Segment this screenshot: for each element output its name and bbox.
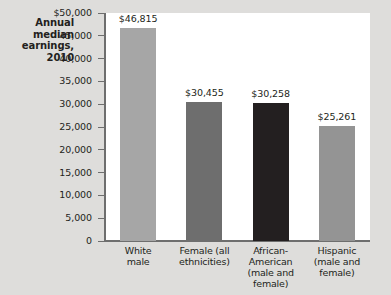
y-axis-tick-label: 30,000 (30, 99, 92, 109)
y-axis-tick (98, 127, 105, 128)
y-axis-tick (98, 81, 105, 82)
category-label-line: African- (238, 245, 304, 256)
category-label-line: Female (all (171, 245, 237, 256)
x-axis-category-label: Female (allethnicities) (171, 245, 237, 267)
category-label-line: ethnicities) (171, 256, 237, 267)
bar-value-label: $25,261 (318, 112, 357, 122)
category-label-line: American (238, 256, 304, 267)
y-axis-tick-label: 10,000 (30, 190, 92, 200)
x-axis-category-label: Hispanic(male andfemale) (304, 245, 370, 278)
category-label-line: (male and (304, 256, 370, 267)
bar-group: $46,815 (120, 13, 156, 241)
y-axis-tick-label: 35,000 (30, 76, 92, 86)
category-label-line: (male and (238, 267, 304, 278)
bar (120, 28, 156, 241)
bar-value-label: $46,815 (119, 14, 158, 24)
bar-group: $30,455 (186, 13, 222, 241)
y-axis-tick (98, 104, 105, 105)
x-axis-category-label: African-American(male andfemale) (238, 245, 304, 289)
bar-value-label: $30,455 (185, 88, 224, 98)
bar (186, 102, 222, 241)
y-axis-tick-label: 15,000 (30, 168, 92, 178)
bar-chart-figure: Annualmedianearnings,2010 05,00010,00015… (0, 0, 391, 295)
category-label-line: White (105, 245, 171, 256)
y-axis-tick (98, 35, 105, 36)
y-axis-tick (98, 13, 105, 14)
y-axis-tick (98, 218, 105, 219)
x-axis-category-label: Whitemale (105, 245, 171, 267)
bar-value-label: $30,258 (251, 89, 290, 99)
y-axis-tick-label: $50,000 (30, 8, 92, 18)
y-axis-tick-label: 0 (30, 236, 92, 246)
bar-group: $25,261 (319, 13, 355, 241)
category-label-line: male (105, 256, 171, 267)
y-axis-tick (98, 149, 105, 150)
bar (253, 103, 289, 241)
y-axis-tick-label: 40,000 (30, 54, 92, 64)
y-axis-tick-label: 45,000 (30, 31, 92, 41)
category-label-line: female) (304, 267, 370, 278)
y-axis-tick-label: 25,000 (30, 122, 92, 132)
bar (319, 126, 355, 241)
bar-group: $30,258 (253, 13, 289, 241)
y-axis-tick-label: 5,000 (30, 213, 92, 223)
y-axis-tick (98, 172, 105, 173)
y-axis-tick (98, 58, 105, 59)
category-label-line: Hispanic (304, 245, 370, 256)
y-axis-tick-labels: 05,00010,00015,00020,00025,00030,00035,0… (30, 0, 92, 295)
x-axis-category-labels: WhitemaleFemale (allethnicities)African-… (105, 245, 370, 295)
category-label-line: female) (238, 278, 304, 289)
y-axis-tick-label: 20,000 (30, 145, 92, 155)
y-axis-tick (98, 241, 105, 242)
bars-group: $46,815$30,455$30,258$25,261 (105, 13, 370, 241)
y-axis-tick (98, 195, 105, 196)
